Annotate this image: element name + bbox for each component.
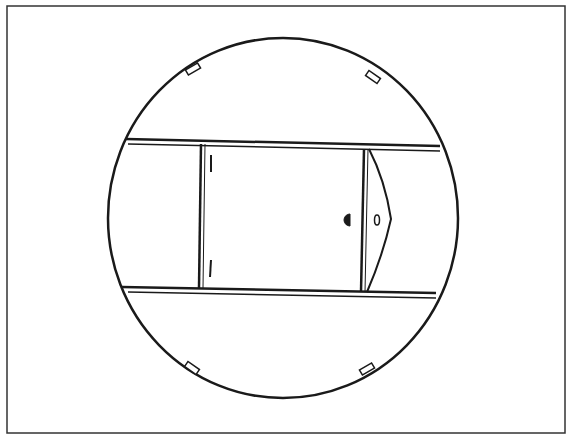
tab-bottom-left [185,362,200,375]
tab-top-left [185,63,200,75]
bottom-rail [122,287,436,298]
top-rail [126,139,440,151]
panel-right-edge [361,149,368,292]
outer-frame [7,6,565,433]
diagram-canvas [0,0,575,443]
tabs [185,63,381,375]
circle-outline [108,38,458,398]
panel-left-edge [199,144,205,288]
knob-icon [344,214,350,226]
diagram-stage [0,0,575,443]
latch-hole-icon [375,215,380,225]
panel-mark-lower [210,260,211,277]
tab-top-right [366,71,381,84]
